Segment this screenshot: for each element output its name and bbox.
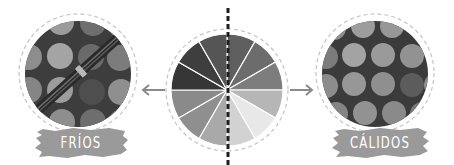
warm-colors-label: CÁLIDOS xyxy=(341,126,419,160)
arrow-right-icon xyxy=(289,81,315,93)
cool-colors-photo xyxy=(17,12,139,134)
arrow-left-icon xyxy=(140,81,166,93)
warm-colors-banner: CÁLIDOS xyxy=(330,126,430,160)
cool-colors-banner: FRÍOS xyxy=(33,126,129,160)
warm-colors-photo xyxy=(314,12,436,134)
cool-colors-label: FRÍOS xyxy=(44,126,119,160)
divider-dashed-line xyxy=(226,8,230,165)
